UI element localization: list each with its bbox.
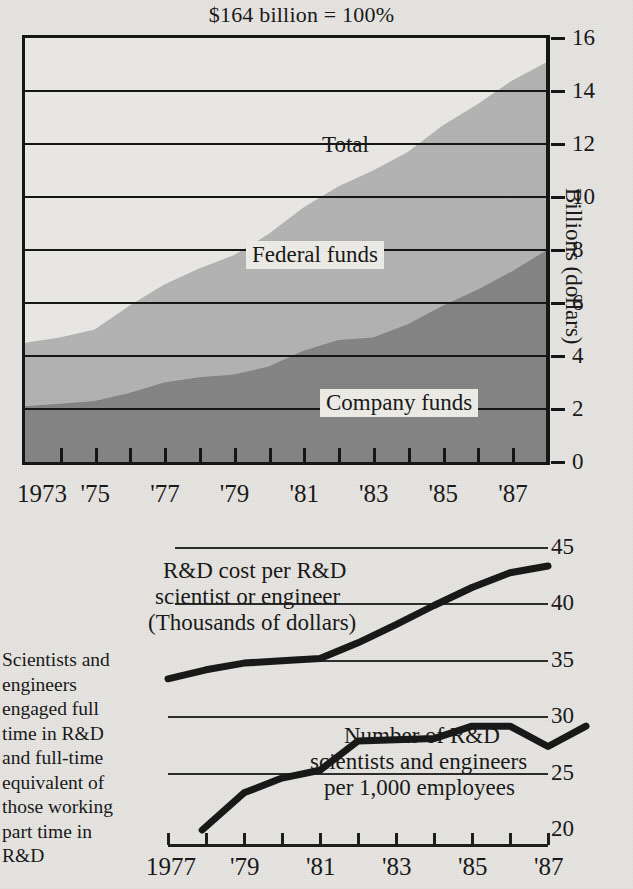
x-axis-tick	[303, 448, 306, 462]
annotation-count-line-1: Number of R&D	[344, 723, 500, 749]
x-axis-label: '79	[230, 853, 260, 881]
series-label-company-funds: Company funds	[320, 389, 478, 417]
annotation-cost-line-3: (Thousands of dollars)	[148, 610, 356, 636]
gridline	[25, 196, 546, 198]
annotation-count-line-2: scientists and engineers	[310, 749, 527, 775]
line-chart: Scientists and engineers engaged full ti…	[0, 520, 633, 889]
x-axis-label: 1973	[17, 480, 67, 508]
x-axis-tick	[269, 448, 272, 462]
x-axis-label: '87	[498, 480, 528, 508]
x-axis-tick	[477, 448, 480, 462]
x-axis-label: '75	[81, 480, 111, 508]
y-axis-tick	[551, 37, 565, 40]
x-axis-tick	[243, 833, 246, 845]
x-axis-tick	[281, 833, 284, 845]
x-axis-label: '83	[359, 480, 389, 508]
x-axis-label: '87	[534, 853, 564, 881]
x-axis-tick	[357, 833, 360, 845]
x-axis-tick	[373, 448, 376, 462]
x-axis-tick	[167, 833, 170, 845]
annotation-cost-line-2: scientist or engineer	[155, 584, 340, 610]
x-axis-tick	[319, 833, 322, 845]
x-axis-tick	[395, 833, 398, 845]
series-label-federal-funds: Federal funds	[246, 241, 384, 269]
x-axis-label: '85	[429, 480, 459, 508]
x-axis-label: '81	[289, 480, 319, 508]
area-chart: 1614121086420 Billions (dollars) 1973'75…	[0, 28, 633, 508]
x-axis-tick	[95, 448, 98, 462]
x-axis-tick	[512, 448, 515, 462]
x-axis-tick	[443, 448, 446, 462]
gridline	[25, 355, 546, 357]
x-axis-tick	[547, 833, 550, 845]
x-axis-tick	[509, 833, 512, 845]
y-axis-tick	[551, 90, 565, 93]
annotation-cost-line-1: R&D cost per R&D	[163, 558, 346, 584]
x-axis-tick	[60, 448, 63, 462]
y-axis-tick	[551, 143, 565, 146]
x-axis-tick	[205, 833, 208, 845]
y-axis-label: 16	[572, 26, 595, 49]
gridline	[25, 90, 546, 92]
x-axis-tick	[433, 833, 436, 845]
x-axis-label: '77	[150, 480, 180, 508]
area-chart-y-axis-title: Billions (dollars)	[560, 188, 586, 488]
x-axis-tick	[164, 448, 167, 462]
x-axis-label: '81	[306, 853, 336, 881]
y-axis-label: 14	[572, 79, 595, 102]
y-axis-label: 12	[572, 132, 595, 155]
gridline	[25, 302, 546, 304]
annotation-count-line-3: per 1,000 employees	[324, 775, 515, 801]
x-axis-tick	[338, 448, 341, 462]
x-axis-label: '85	[458, 853, 488, 881]
gridline	[25, 143, 546, 145]
x-axis-tick	[408, 448, 411, 462]
x-axis-tick	[199, 448, 202, 462]
x-axis-label: '79	[220, 480, 250, 508]
x-axis-label: 1977	[146, 853, 196, 881]
series-label-total: Total	[322, 132, 369, 158]
page-title: $164 billion = 100%	[0, 2, 603, 28]
x-axis-tick	[129, 448, 132, 462]
x-axis-label: '83	[382, 853, 412, 881]
x-axis-tick	[234, 448, 237, 462]
x-axis-tick	[471, 833, 474, 845]
